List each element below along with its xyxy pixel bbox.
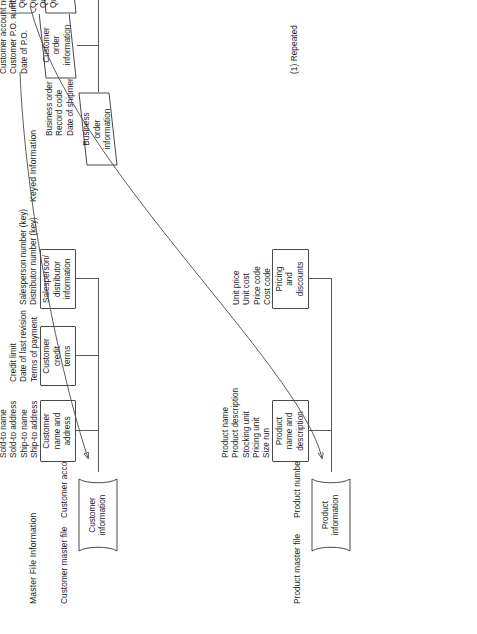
- box-business-order-information-label: Businessorderinformation: [82, 109, 113, 150]
- customer-stub-1: [75, 430, 99, 431]
- store-customer-information-label: Customerinformation: [88, 495, 109, 536]
- box-customer-credit-terms[interactable]: Customercreditterms: [40, 326, 76, 386]
- fields-product-name-and-description: Product nameProduct descriptionStocking …: [221, 388, 272, 458]
- box-customer-name-and-address-label: Customername andaddress: [42, 413, 73, 449]
- customer-trunk-line: [98, 278, 99, 472]
- customer-stub-2: [75, 355, 99, 356]
- product-stub-2: [308, 278, 332, 279]
- box-business-order-information[interactable]: Businessorderinformation: [78, 92, 118, 166]
- customer-master-file-label: Customer master file: [60, 526, 70, 604]
- section-title-keyed-information: Keyed Information: [28, 130, 38, 202]
- product-master-file-label: Product master file: [293, 534, 303, 604]
- diagram-canvas: Master File Information Customer master …: [0, 0, 477, 634]
- customer-stub-3: [75, 278, 99, 279]
- box-salesperson-distributor-information-label: Salesperson/distributorinformation: [42, 255, 73, 303]
- keyed-stub-1: [76, 45, 99, 46]
- box-customer-order-information[interactable]: Customerorderinformation: [38, 11, 77, 79]
- box-pricing-and-discounts[interactable]: Pricinganddiscounts: [272, 249, 309, 309]
- product-number-key-label: Product number: [293, 458, 303, 518]
- section-title-master-file: Master File Information: [28, 513, 38, 604]
- box-customer-credit-terms-label: Customercreditterms: [42, 338, 73, 374]
- product-trunk-line: [331, 278, 332, 472]
- box-salesperson-distributor-information[interactable]: Salesperson/distributorinformation: [40, 249, 76, 309]
- fields-customer-order-information: Customer account number (key)Customer P.…: [0, 0, 30, 74]
- diagram-rotation-wrapper: Master File Information Customer master …: [0, 0, 477, 634]
- box-pricing-and-discounts-label: Pricinganddiscounts: [275, 262, 306, 297]
- fields-packing-information: Product number (1) (key)Quantity ordered…: [8, 0, 59, 8]
- keyed-trunk-line: [98, 0, 99, 92]
- product-stub-1: [308, 430, 332, 431]
- store-product-information[interactable]: Productinformation: [311, 472, 351, 558]
- box-customer-name-and-address[interactable]: Customername andaddress: [40, 400, 76, 462]
- fields-salesperson-distributor-information: Salesperson number (key)Distributor numb…: [19, 209, 40, 305]
- box-product-name-and-description-label: Productname anddescription: [275, 411, 306, 451]
- box-customer-order-information-label: Customerorderinformation: [42, 25, 73, 66]
- fields-pricing-and-discounts: Unit priceUnit costPrice codeCost code: [232, 266, 273, 305]
- fields-customer-credit-terms: Credit limitDate of last revisionTerms o…: [9, 310, 40, 382]
- store-product-information-label: Productinformation: [321, 495, 342, 536]
- fields-customer-name-and-address: Sold-to nameSold-to addressShip-to nameS…: [0, 401, 40, 458]
- footnote-repeated: (1) Repeated: [290, 25, 300, 74]
- store-customer-information[interactable]: Customerinformation: [78, 472, 118, 558]
- box-product-name-and-description[interactable]: Productname anddescription: [272, 400, 309, 462]
